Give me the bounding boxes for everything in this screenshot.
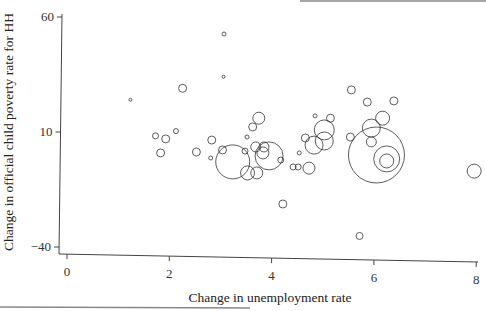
data-point bbox=[209, 156, 213, 160]
y-tick-label: −40 bbox=[31, 239, 51, 254]
data-point bbox=[297, 151, 301, 155]
x-tick-label: 6 bbox=[371, 270, 378, 285]
x-axis-line bbox=[59, 254, 478, 262]
y-axis-line bbox=[59, 14, 62, 254]
data-point bbox=[253, 112, 265, 124]
data-point bbox=[249, 123, 257, 131]
data-point bbox=[242, 148, 248, 154]
x-axis: 02468 Change in unemployment rate bbox=[59, 254, 479, 305]
data-point bbox=[303, 162, 315, 174]
data-point bbox=[467, 164, 481, 178]
x-tick-label: 8 bbox=[473, 272, 480, 287]
data-point bbox=[222, 75, 225, 78]
data-point bbox=[376, 111, 390, 125]
data-point bbox=[305, 136, 323, 154]
data-point bbox=[218, 146, 226, 154]
data-point bbox=[362, 119, 380, 137]
x-tick-label: 2 bbox=[166, 266, 173, 281]
data-point bbox=[251, 167, 263, 179]
data-point bbox=[162, 135, 170, 143]
data-point bbox=[366, 137, 376, 147]
data-point bbox=[363, 98, 371, 106]
y-axis: 6010−40 Change in official child poverty… bbox=[1, 9, 62, 254]
y-axis-title: Change in official child poverty rate fo… bbox=[1, 13, 16, 251]
bottom-page-rule bbox=[0, 307, 250, 308]
data-point bbox=[347, 86, 355, 94]
data-point bbox=[173, 129, 178, 134]
data-point bbox=[179, 84, 187, 92]
data-point bbox=[326, 114, 334, 122]
data-point bbox=[241, 166, 255, 180]
x-tick-label: 0 bbox=[64, 264, 71, 279]
data-point bbox=[278, 157, 284, 163]
data-point bbox=[279, 200, 287, 208]
y-tick-label: 10 bbox=[40, 124, 53, 139]
plot-area bbox=[129, 32, 481, 239]
data-point bbox=[222, 32, 226, 36]
data-point bbox=[315, 132, 333, 150]
data-point bbox=[257, 147, 269, 159]
data-point bbox=[216, 145, 250, 179]
data-point bbox=[152, 133, 158, 139]
data-point bbox=[313, 114, 317, 118]
data-point bbox=[192, 148, 200, 156]
data-point bbox=[157, 149, 165, 157]
data-point bbox=[129, 98, 132, 101]
data-point bbox=[390, 97, 398, 105]
data-point bbox=[356, 232, 363, 239]
data-point bbox=[208, 136, 216, 144]
x-tick-label: 4 bbox=[268, 268, 275, 283]
x-axis-title: Change in unemployment rate bbox=[188, 290, 351, 305]
data-point bbox=[380, 154, 394, 168]
scatter-chart: 6010−40 Change in official child poverty… bbox=[0, 0, 486, 311]
y-tick-label: 60 bbox=[41, 9, 54, 24]
data-point bbox=[245, 135, 249, 139]
